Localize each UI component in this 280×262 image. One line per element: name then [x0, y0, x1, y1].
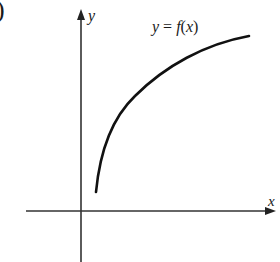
curve-label-equals: = [159, 18, 176, 35]
x-axis-label: x [267, 193, 275, 209]
y-axis-arrow-icon [77, 9, 85, 20]
graph-figure: ) y x y = f(x) [0, 0, 280, 262]
curve-label-x: x [185, 18, 193, 35]
curve-label: y = f(x) [150, 18, 198, 36]
function-curve [96, 36, 249, 192]
curve-label-close-paren: ) [193, 18, 198, 36]
y-axis-label: y [86, 7, 96, 25]
paren-fragment: ) [0, 0, 5, 24]
